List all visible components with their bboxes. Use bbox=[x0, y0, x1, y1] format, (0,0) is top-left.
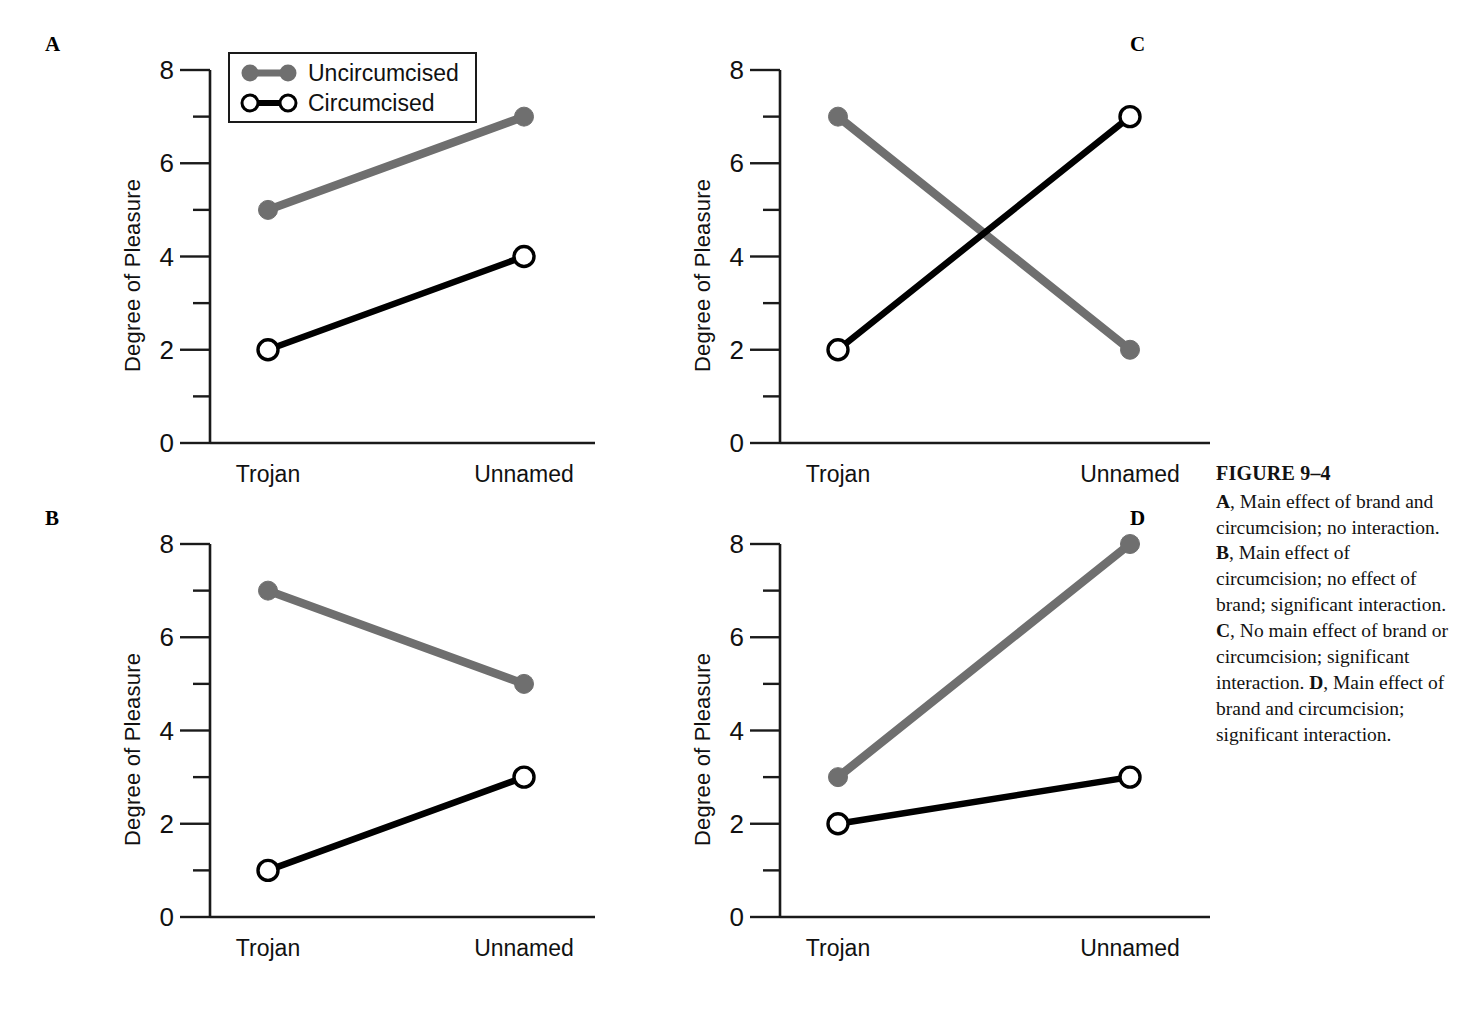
legend-item-uncircumcised: Uncircumcised bbox=[238, 58, 465, 88]
y-tick-label: 0 bbox=[716, 902, 744, 933]
y-axis-ticks bbox=[180, 70, 210, 443]
data-point bbox=[515, 674, 534, 693]
caption-title: FIGURE 9–4 bbox=[1216, 460, 1452, 487]
y-tick-label: 8 bbox=[146, 55, 174, 86]
x-tick-label: Unnamed bbox=[474, 935, 574, 962]
caption-entry-letter: D bbox=[1309, 672, 1323, 693]
data-point bbox=[1121, 535, 1140, 554]
series-circumcised bbox=[828, 767, 1140, 834]
y-tick-label: 2 bbox=[716, 808, 744, 839]
axes bbox=[780, 544, 1210, 917]
caption-body: A, Main effect of brand and circumcision… bbox=[1216, 489, 1452, 748]
caption-entry-A: A, Main effect of brand and circumcision… bbox=[1216, 491, 1440, 538]
y-tick-label: 8 bbox=[716, 529, 744, 560]
y-tick-label: 4 bbox=[716, 241, 744, 272]
caption-entry-letter: B bbox=[1216, 542, 1229, 563]
data-point bbox=[828, 814, 848, 834]
y-tick-label: 0 bbox=[146, 428, 174, 459]
caption-entry-letter: A bbox=[1216, 491, 1230, 512]
y-tick-label: 2 bbox=[716, 334, 744, 365]
y-tick-label: 6 bbox=[146, 148, 174, 179]
legend-swatch-uncircumcised-icon bbox=[238, 60, 300, 86]
x-tick-label: Trojan bbox=[806, 935, 870, 962]
plot-svg bbox=[570, 0, 1230, 500]
y-axis-ticks bbox=[750, 544, 780, 917]
data-point bbox=[1121, 340, 1140, 359]
y-tick-label: 2 bbox=[146, 334, 174, 365]
data-point bbox=[514, 247, 534, 267]
series-circumcised bbox=[258, 767, 534, 880]
data-point bbox=[828, 340, 848, 360]
legend-label-uncircumcised: Uncircumcised bbox=[308, 60, 459, 87]
series-uncircumcised bbox=[259, 581, 534, 693]
data-point bbox=[259, 581, 278, 600]
y-tick-label: 6 bbox=[146, 622, 174, 653]
data-point bbox=[829, 768, 848, 787]
series-uncircumcised bbox=[259, 107, 534, 219]
y-tick-label: 2 bbox=[146, 808, 174, 839]
plot-area-D: 02468TrojanUnnamed bbox=[570, 474, 1230, 974]
panel-A: A Degree of Pleasure 02468TrojanUnnamed … bbox=[0, 0, 620, 500]
y-axis-ticks bbox=[750, 70, 780, 443]
data-point bbox=[514, 767, 534, 787]
y-tick-label: 4 bbox=[716, 715, 744, 746]
caption-entry-text: , Main effect of brand and circumcision;… bbox=[1216, 491, 1440, 538]
x-tick-label: Trojan bbox=[236, 935, 300, 962]
plot-svg bbox=[0, 474, 620, 974]
data-point bbox=[515, 107, 534, 126]
y-tick-label: 8 bbox=[146, 529, 174, 560]
data-point bbox=[259, 200, 278, 219]
caption-entry-letter: C bbox=[1216, 620, 1230, 641]
series-circumcised bbox=[258, 247, 534, 360]
data-point bbox=[258, 340, 278, 360]
plot-area-C: 02468TrojanUnnamed bbox=[570, 0, 1230, 500]
data-point bbox=[258, 860, 278, 880]
plot-area-B: 02468TrojanUnnamed bbox=[0, 474, 620, 974]
caption-entry-B: B, Main effect of circumcision; no effec… bbox=[1216, 542, 1446, 615]
legend-item-circumcised: Circumcised bbox=[238, 88, 465, 118]
y-tick-label: 0 bbox=[146, 902, 174, 933]
legend: Uncircumcised Circumcised bbox=[228, 52, 477, 123]
y-tick-label: 8 bbox=[716, 55, 744, 86]
data-point bbox=[1120, 107, 1140, 127]
caption-entry-text: , Main effect of circumcision; no effect… bbox=[1216, 542, 1446, 615]
data-point bbox=[829, 107, 848, 126]
y-tick-label: 6 bbox=[716, 148, 744, 179]
y-tick-label: 0 bbox=[716, 428, 744, 459]
y-axis-ticks bbox=[180, 544, 210, 917]
y-tick-label: 4 bbox=[146, 241, 174, 272]
panel-B: B Degree of Pleasure 02468TrojanUnnamed bbox=[0, 474, 620, 974]
data-point bbox=[1120, 767, 1140, 787]
legend-swatch-circumcised-icon bbox=[238, 90, 300, 116]
panel-D: D Degree of Pleasure 02468TrojanUnnamed bbox=[570, 474, 1230, 974]
panel-C: C Degree of Pleasure 02468TrojanUnnamed bbox=[570, 0, 1230, 500]
y-tick-label: 6 bbox=[716, 622, 744, 653]
legend-label-circumcised: Circumcised bbox=[308, 90, 435, 117]
plot-svg bbox=[570, 474, 1230, 974]
series-uncircumcised bbox=[829, 535, 1140, 787]
axes bbox=[210, 70, 595, 443]
figure-caption: FIGURE 9–4 A, Main effect of brand and c… bbox=[1216, 460, 1452, 748]
figure-9-4: A Degree of Pleasure 02468TrojanUnnamed … bbox=[0, 0, 1462, 1020]
y-tick-label: 4 bbox=[146, 715, 174, 746]
x-tick-label: Unnamed bbox=[1080, 935, 1180, 962]
